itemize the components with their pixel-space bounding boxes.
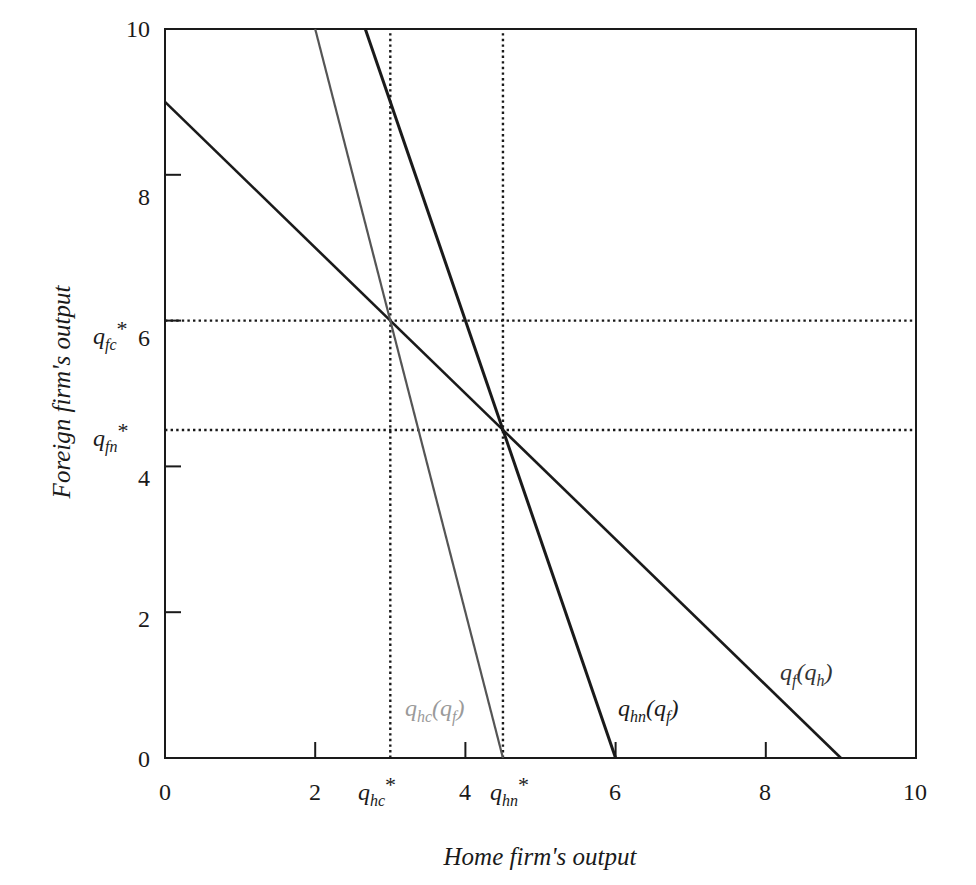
- label-qhn-of-qf: qhn(qf): [618, 695, 678, 726]
- label-q-fn-star: qfn*: [93, 418, 128, 456]
- label-q-hn-star: qhn*: [490, 772, 529, 809]
- series-line-2: [315, 29, 503, 758]
- reaction-function-chart: 0 2 4 6 8 10 0 2 4 6 8 10 qhc* qhn* qfc*…: [0, 0, 976, 885]
- label-q-hc-star: qhc*: [358, 772, 396, 809]
- x-tick-6: 6: [609, 779, 621, 805]
- x-tick-4: 4: [459, 779, 471, 805]
- label-q-fc-star: qfc*: [93, 316, 128, 354]
- x-tick-10: 10: [903, 779, 927, 805]
- y-tick-10: 10: [126, 16, 150, 42]
- label-qf-of-qh: qf(qh): [780, 659, 832, 690]
- y-tick-6: 6: [138, 325, 150, 351]
- y-axis-title: Foreign firm's output: [48, 285, 75, 500]
- label-qhc-of-qf: qhc(qf): [405, 695, 465, 726]
- y-tick-8: 8: [138, 184, 150, 210]
- x-axis-title: Home firm's output: [443, 843, 638, 870]
- series-line-1: [365, 29, 615, 758]
- y-tick-0: 0: [138, 746, 150, 772]
- x-tick-8: 8: [759, 779, 771, 805]
- x-tick-2: 2: [309, 779, 321, 805]
- plot-frame: [165, 29, 916, 758]
- y-tick-labels: 0 2 4 6 8 10: [126, 16, 150, 772]
- x-tick-0: 0: [159, 779, 171, 805]
- y-tick-2: 2: [138, 606, 150, 632]
- x-tick-labels: 0 2 4 6 8 10: [159, 779, 927, 805]
- plot-area: [165, 29, 916, 758]
- y-tick-4: 4: [138, 465, 150, 491]
